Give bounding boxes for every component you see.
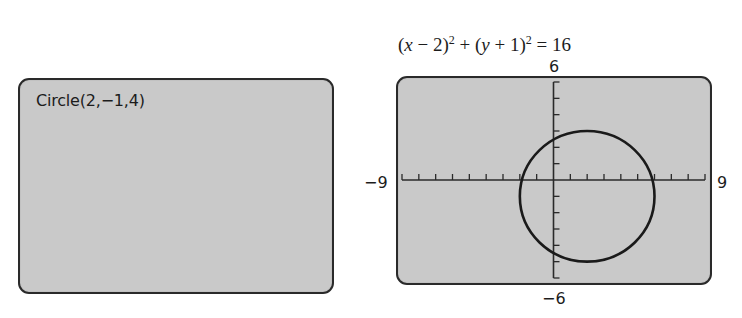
axes [402, 82, 705, 278]
circle-curve [520, 131, 655, 262]
graph-plot [0, 0, 742, 318]
